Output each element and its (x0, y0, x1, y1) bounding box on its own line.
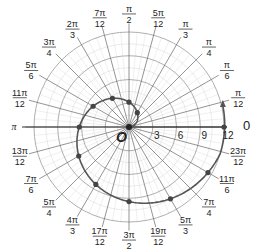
angle-label-numerator: 2π (67, 19, 78, 29)
angle-label-denominator: 12 (95, 19, 105, 29)
angle-label-330: 11π6 (219, 174, 235, 195)
angle-label-60: π3 (179, 19, 193, 40)
angle-label-denominator: 6 (224, 185, 229, 195)
angle-label-denominator: 3 (183, 30, 188, 40)
minor-ray (151, 135, 218, 159)
spiral-point (110, 96, 115, 101)
polar-chart: π12π6π4π35π12π27π122π33π45π611π12π13π127… (0, 0, 260, 251)
angle-label-numerator: 13π (12, 146, 28, 156)
angle-label-denominator: 4 (47, 208, 52, 218)
angle-label-345: 23π12 (230, 146, 246, 167)
angle-label-numerator: 3π (123, 230, 134, 240)
radial-label-9: 9 (201, 130, 207, 141)
angle-label-numerator: 5π (25, 60, 36, 70)
spiral-point (76, 153, 81, 158)
angle-label-135: 3π4 (42, 37, 56, 58)
angle-label-240: 4π3 (65, 215, 79, 236)
angle-label-numerator: π (235, 88, 241, 98)
ray-285 (129, 127, 156, 227)
angle-label-denominator: 12 (153, 19, 163, 29)
spiral-point (126, 100, 131, 105)
radial-label-12: 12 (222, 130, 234, 141)
angle-label-165: 11π12 (12, 88, 28, 109)
angle-label-120: 2π3 (65, 19, 79, 40)
ray-75 (129, 27, 156, 127)
angle-label-denominator: 6 (29, 185, 34, 195)
angle-label-75: 5π12 (151, 8, 165, 29)
angle-label-195: 13π12 (12, 146, 28, 167)
angle-label-300: 5π3 (179, 215, 193, 236)
angle-label-text: π (11, 121, 17, 132)
polar-axis-zero-label: 0 (243, 118, 250, 133)
minor-ray (137, 38, 161, 105)
angle-label-denominator: 12 (15, 99, 25, 109)
angle-label-numerator: 7π (94, 8, 105, 18)
spiral-point (221, 124, 226, 129)
angle-label-denominator: 3 (70, 226, 75, 236)
angle-label-180: π (11, 121, 17, 132)
radial-label-3: 3 (154, 130, 160, 141)
angle-label-denominator: 12 (233, 157, 243, 167)
angle-label-numerator: 7π (25, 174, 36, 184)
angle-label-225: 5π4 (42, 197, 56, 218)
angle-label-numerator: 7π (203, 197, 214, 207)
origin-label: O (116, 129, 127, 145)
angle-label-255: 17π12 (92, 226, 108, 247)
spiral-point (77, 124, 82, 129)
angle-label-denominator: 6 (224, 71, 229, 81)
angle-label-numerator: 23π (230, 146, 246, 156)
ray-195 (29, 127, 129, 154)
minor-ray (40, 135, 107, 159)
radial-label-6: 6 (178, 130, 184, 141)
angle-label-denominator: 6 (29, 71, 34, 81)
angle-label-45: π4 (202, 37, 216, 58)
angle-label-90: π2 (122, 4, 136, 25)
angle-label-denominator: 12 (153, 237, 163, 247)
angle-label-denominator: 12 (233, 99, 243, 109)
angle-label-210: 7π6 (24, 174, 38, 195)
angle-label-numerator: 11π (12, 88, 28, 98)
angle-label-denominator: 4 (47, 48, 52, 58)
angle-label-270: 3π2 (122, 230, 136, 251)
angle-label-numerator: π (224, 60, 230, 70)
minor-ray (40, 95, 107, 119)
spiral-point (135, 110, 140, 115)
spiral-point (93, 182, 98, 187)
angle-label-numerator: 5π (153, 8, 164, 18)
angle-label-denominator: 4 (206, 208, 211, 218)
minor-ray (137, 149, 161, 216)
angle-label-315: 7π4 (202, 197, 216, 218)
spiral-point (126, 199, 131, 204)
angle-label-denominator: 2 (126, 15, 131, 25)
angle-label-numerator: π (182, 19, 188, 29)
angle-label-numerator: 5π (180, 215, 191, 225)
spiral-point (205, 170, 210, 175)
angle-label-105: 7π12 (93, 8, 107, 29)
angle-label-numerator: 5π (43, 197, 54, 207)
angle-label-15: π12 (231, 88, 245, 109)
angle-label-150: 5π6 (24, 60, 38, 81)
ray-105 (102, 27, 129, 127)
ray-15 (129, 100, 229, 127)
angle-label-numerator: 17π (92, 226, 108, 236)
radial-tick-labels: 36912 (154, 130, 234, 141)
angle-label-numerator: 4π (67, 215, 78, 225)
angle-label-denominator: 12 (15, 157, 25, 167)
angle-label-denominator: 4 (206, 48, 211, 58)
angle-label-denominator: 3 (183, 226, 188, 236)
angle-label-denominator: 3 (70, 30, 75, 40)
angle-label-numerator: π (126, 4, 132, 14)
angle-label-285: 19π12 (150, 226, 166, 247)
angle-label-30: π6 (220, 60, 234, 81)
angle-label-numerator: 11π (219, 174, 235, 184)
minor-ray (97, 38, 121, 105)
minor-ray (97, 149, 121, 216)
angle-label-denominator: 2 (126, 241, 131, 251)
spiral-point (168, 196, 173, 201)
origin-dot (126, 124, 132, 130)
ray-165 (29, 100, 129, 127)
angle-label-numerator: 3π (43, 37, 54, 47)
spiral-point (91, 104, 96, 109)
angle-label-numerator: π (206, 37, 212, 47)
angle-label-denominator: 12 (95, 237, 105, 247)
